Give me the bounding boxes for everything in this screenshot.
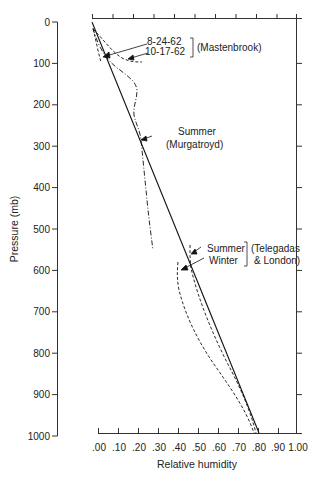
annotations: 8-24-62 10-17-62 (Mastenbrook) Summer (M… [145, 36, 300, 266]
y-axis [52, 22, 58, 436]
y-axis-title: Pressure (mb) [8, 196, 20, 263]
x-tick-100: 1.00 [288, 442, 308, 453]
telegadas-source-1: (Telegadas [251, 243, 300, 254]
y-tick-800: 800 [33, 348, 50, 359]
reference-line [92, 22, 259, 433]
x-tick-70: .70 [232, 442, 246, 453]
telegadas-summer-label: Summer [207, 243, 245, 254]
annotation-arrows [103, 44, 204, 270]
mastenbrook-source: (Mastenbrook) [197, 42, 261, 53]
x-tick-80: .80 [252, 442, 266, 453]
y-tick-200: 200 [33, 99, 50, 110]
y-tick-500: 500 [33, 224, 50, 235]
y-tick-1000: 1000 [28, 431, 51, 442]
x-tick-labels: .00 .10 .20 .30 .40 .50 .60 .70 .80 .90 … [92, 442, 308, 453]
x-tick-40: .40 [172, 442, 186, 453]
y-tick-400: 400 [33, 182, 50, 193]
x-tick-60: .60 [212, 442, 226, 453]
mastenbrook-date-2: 10-17-62 [145, 46, 185, 57]
x-tick-30: .30 [152, 442, 166, 453]
humidity-pressure-chart: 0 100 200 300 400 500 600 700 800 900 10… [0, 0, 318, 481]
right-frame-axis [297, 19, 303, 434]
x-tick-00: .00 [92, 442, 106, 453]
x-tick-90: .90 [271, 442, 285, 453]
top-frame-axis [92, 14, 302, 19]
y-tick-100: 100 [33, 58, 50, 69]
y-tick-0: 0 [44, 17, 50, 28]
murgatroyd-season: Summer [178, 126, 216, 137]
x-axis-title: Relative humidity [157, 458, 238, 470]
y-tick-600: 600 [33, 265, 50, 276]
plot-curves [92, 22, 259, 433]
murgatroyd-source: (Murgatroyd) [166, 139, 223, 150]
telegadas-winter-curve [177, 262, 254, 433]
mastenbrook-bracket [190, 38, 193, 57]
y-tick-300: 300 [33, 141, 50, 152]
y-tick-labels: 0 100 200 300 400 500 600 700 800 900 10… [28, 17, 51, 442]
telegadas-winter-label: Winter [209, 255, 239, 266]
x-tick-50: .50 [192, 442, 206, 453]
x-tick-10: .10 [112, 442, 126, 453]
y-tick-900: 900 [33, 389, 50, 400]
x-tick-20: .20 [132, 442, 146, 453]
telegadas-source-2: & London) [254, 255, 300, 266]
x-axis [98, 428, 302, 434]
y-tick-700: 700 [33, 306, 50, 317]
telegadas-summer-curve [190, 245, 256, 433]
